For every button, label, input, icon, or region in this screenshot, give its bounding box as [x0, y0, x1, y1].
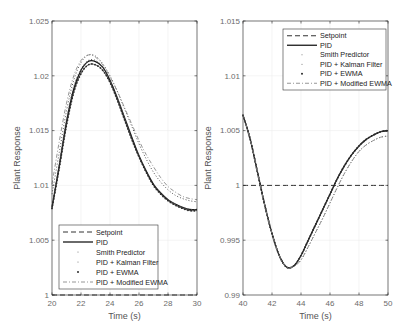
right-legend: SetpointPIDSmith PredictorPID + Kalman F… — [283, 29, 392, 90]
left-subplot: 202224262830 11.0051.011.0151.021.025 Ti… — [12, 17, 202, 321]
svg-text:40: 40 — [239, 299, 248, 308]
svg-text:50: 50 — [384, 299, 393, 308]
left-x-axis-label: Time (s) — [108, 311, 141, 321]
svg-text:20: 20 — [48, 299, 57, 308]
svg-text:PID + EWMA: PID + EWMA — [96, 268, 139, 277]
right-series — [242, 114, 388, 268]
svg-text:0.99: 0.99 — [224, 291, 240, 300]
svg-text:1.01: 1.01 — [224, 72, 240, 81]
right-x-axis-label: Time (s) — [299, 311, 332, 321]
svg-text:Smith Predictor: Smith Predictor — [96, 248, 146, 257]
svg-text:1.005: 1.005 — [29, 236, 50, 245]
svg-text:PID + Kalman Filter: PID + Kalman Filter — [320, 60, 383, 69]
svg-text:22: 22 — [77, 299, 86, 308]
svg-text:PID: PID — [96, 238, 108, 247]
svg-text:1.005: 1.005 — [220, 126, 241, 135]
left-legend: SetpointPIDSmith PredictorPID + Kalman F… — [59, 225, 168, 289]
svg-text:30: 30 — [193, 299, 202, 308]
svg-text:46: 46 — [326, 299, 335, 308]
svg-text:1.015: 1.015 — [220, 17, 241, 26]
svg-text:0.995: 0.995 — [220, 236, 241, 245]
left-y-axis-label: Plant Response — [12, 126, 22, 190]
svg-text:Setpoint: Setpoint — [96, 228, 122, 237]
svg-text:28: 28 — [164, 299, 173, 308]
svg-text:1: 1 — [45, 291, 50, 300]
svg-text:1.025: 1.025 — [29, 17, 50, 26]
series-pid — [52, 61, 197, 210]
svg-text:24: 24 — [106, 299, 115, 308]
svg-text:PID + Kalman Filter: PID + Kalman Filter — [96, 258, 159, 267]
right-y-axis-label: Plant Response — [203, 126, 213, 190]
svg-text:PID + EWMA: PID + EWMA — [320, 69, 363, 78]
series-smith-predictor — [52, 59, 197, 209]
series-smith-predictor — [243, 115, 388, 268]
svg-text:26: 26 — [135, 299, 144, 308]
right-subplot: 404244464850 0.990.99511.0051.011.015 Ti… — [203, 17, 393, 321]
series-pid-modified-ewma — [243, 115, 388, 268]
svg-text:1: 1 — [236, 181, 241, 190]
svg-text:1.02: 1.02 — [33, 72, 49, 81]
svg-text:Setpoint: Setpoint — [320, 31, 346, 40]
svg-text:PID + Modified EWMA: PID + Modified EWMA — [320, 79, 392, 88]
series-pid-ewma — [243, 115, 388, 268]
series-pid-modified-ewma — [52, 55, 197, 200]
svg-text:Smith Predictor: Smith Predictor — [320, 50, 370, 59]
figure: 202224262830 11.0051.011.0151.021.025 Ti… — [0, 0, 413, 335]
svg-text:1.015: 1.015 — [29, 126, 50, 135]
series-pid-kalman-filter — [243, 115, 388, 268]
svg-text:48: 48 — [355, 299, 364, 308]
series-pid — [243, 115, 388, 268]
svg-text:42: 42 — [268, 299, 277, 308]
svg-text:44: 44 — [297, 299, 306, 308]
svg-text:1.01: 1.01 — [33, 181, 49, 190]
svg-text:PID + Modified EWMA: PID + Modified EWMA — [96, 278, 168, 287]
svg-text:PID: PID — [320, 41, 332, 50]
